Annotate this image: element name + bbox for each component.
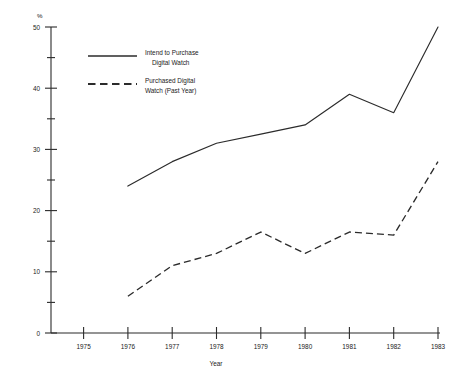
y-tick-label-40: 40 — [33, 85, 41, 92]
chart-legend: Intend to Purchase Digital Watch Purchas… — [88, 49, 199, 95]
x-tick-label-1982: 1982 — [387, 343, 402, 350]
x-axis-title: Year — [210, 360, 224, 367]
legend-label-purchased-line2: Watch (Past Year) — [145, 87, 196, 95]
series-line-purchased-past-year — [128, 162, 438, 297]
x-tick-label-1977: 1977 — [165, 343, 180, 350]
y-axis-unit-label: % — [37, 12, 43, 19]
x-tick-label-1975: 1975 — [76, 343, 91, 350]
x-tick-label-1978: 1978 — [209, 343, 224, 350]
legend-label-purchased-line1: Purchased Digital — [145, 77, 195, 85]
x-tick-label-1976: 1976 — [121, 343, 136, 350]
x-tick-label-1983: 1983 — [431, 343, 446, 350]
y-tick-label-0: 0 — [36, 330, 40, 337]
chart-canvas: 50 40 30 20 10 0 % 1975 1976 1977 1978 1… — [0, 0, 457, 390]
y-tick-label-10: 10 — [33, 268, 41, 275]
y-tick-label-50: 50 — [33, 24, 41, 31]
line-chart: 50 40 30 20 10 0 % 1975 1976 1977 1978 1… — [0, 0, 457, 390]
x-tick-label-1980: 1980 — [298, 343, 313, 350]
legend-label-intend-line2: Digital Watch — [152, 59, 190, 67]
x-tick-label-1981: 1981 — [342, 343, 357, 350]
x-tick-label-1979: 1979 — [254, 343, 269, 350]
y-tick-label-20: 20 — [33, 207, 41, 214]
y-tick-label-30: 30 — [33, 146, 41, 153]
legend-label-intend-line1: Intend to Purchase — [145, 49, 199, 56]
